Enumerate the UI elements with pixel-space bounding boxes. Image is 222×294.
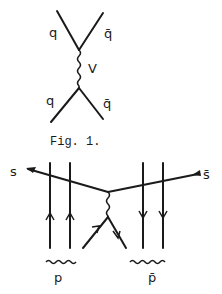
arrow-icon [192,170,201,176]
antiproton-bracket [130,261,165,264]
proton-bracket [46,261,76,264]
antiquark-line-top-right [79,13,103,50]
label-v: V [88,61,97,76]
figure-2-diagram: s s̄ p p̄ [10,163,210,285]
incoming-quark-line [83,217,108,248]
label-qbar-top: q̄ [104,26,112,41]
antiquark-line-bottom-right [79,88,103,119]
incoming-antiquark-line [108,217,126,248]
quark-line-bottom-left [51,88,79,122]
sbar-quark-line [108,174,198,192]
quark-line-top-left [57,11,79,50]
feynman-diagrams: q q̄ V q q̄ Fig. 1. s s̄ [0,0,222,294]
label-q-top: q [49,25,57,40]
label-q-bottom: q [46,93,54,108]
label-qbar-bottom: q̄ [103,96,111,111]
s-quark-line [28,169,108,192]
arrow-icon [26,167,36,173]
label-pbar: p̄ [148,270,156,285]
figure-caption: Fig. 1. [50,135,100,149]
gluon-propagator [107,192,110,218]
figure-1-diagram: q q̄ V q q̄ Fig. 1. [46,11,112,149]
label-sbar: s̄ [203,167,210,182]
label-p: p [54,270,62,285]
vector-boson-propagator [78,50,81,88]
label-s: s [10,164,17,179]
